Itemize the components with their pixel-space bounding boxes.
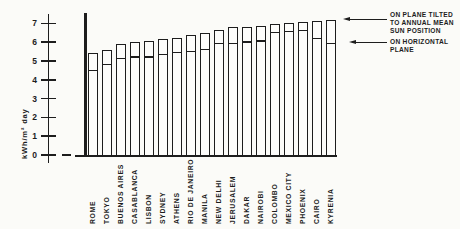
y-tick-label: 3 (23, 94, 37, 104)
y-axis-tick (41, 117, 56, 119)
legend-horizontal-label: ON HORIZONTAL PLANE (390, 38, 448, 54)
bar-buenos-aires (116, 44, 126, 156)
x-axis-label: CASABLANCA (131, 169, 138, 224)
x-axis-label: SYDNEY (159, 192, 166, 224)
y-axis-tick (41, 41, 56, 43)
y-axis-tick (41, 135, 56, 137)
horizontal-plane-line (89, 70, 97, 71)
bar-kyrenia (326, 20, 336, 156)
y-tick-label: 0 (23, 150, 37, 160)
horizontal-plane-line (313, 38, 321, 39)
horizontal-plane-line (327, 43, 335, 44)
bar-mexico-city (284, 23, 294, 156)
horizontal-plane-line (187, 51, 195, 52)
bar-jerusalem (228, 27, 238, 156)
y-axis-tick (41, 154, 56, 156)
horizontal-plane-line (229, 43, 237, 44)
y-axis-tick (41, 23, 56, 25)
legend-tilted-line2: TO ANNUAL MEAN (390, 19, 454, 27)
x-axis-label: KYRENIA (327, 189, 334, 225)
x-axis-label: CAIRO (313, 199, 320, 224)
legend-tilted-line3: SUN POSITION (390, 27, 454, 35)
bar-colombo (270, 24, 280, 156)
legend-horizontal-line2: PLANE (390, 46, 448, 54)
bar-rome (88, 53, 98, 156)
horizontal-plane-line (131, 56, 139, 57)
x-axis-label: DAKAR (243, 196, 250, 224)
y-tick-label: 1 (23, 131, 37, 141)
y-tick-label: 5 (23, 56, 37, 66)
bar-rio-de-janeiro (186, 35, 196, 156)
arrow-line (350, 19, 387, 20)
y-tick-label: 2 (23, 112, 37, 122)
horizontal-plane-line (299, 30, 307, 31)
horizontal-plane-line (285, 31, 293, 32)
x-axis-label: NEW DELHI (215, 180, 222, 224)
x-axis-label: JERUSALEM (229, 176, 236, 224)
bar-dakar (242, 27, 252, 156)
x-axis-label: LISBON (145, 194, 152, 224)
x-axis-label: RIO DE JANEIRO (187, 159, 194, 224)
horizontal-plane-line (173, 52, 181, 53)
y-axis-tick (41, 60, 56, 62)
x-axis-label: COLOMBO (271, 184, 278, 224)
bar-nairobi (256, 26, 266, 156)
bar-athens (172, 38, 182, 157)
x-axis-label: ROME (89, 201, 96, 224)
horizontal-plane-line (159, 54, 167, 55)
y-tick-label: 7 (23, 18, 37, 28)
bar-lisbon (144, 41, 154, 156)
x-axis-label: TOKYO (103, 196, 110, 224)
zero-dash (62, 154, 71, 156)
horizontal-plane-line (243, 41, 251, 42)
bar-phoenix (298, 22, 308, 156)
y-axis-tick (41, 98, 56, 100)
y-axis-tick (41, 79, 56, 81)
bar-manila (200, 33, 210, 156)
bar-sydney (158, 39, 168, 156)
x-axis-label: MANILA (201, 193, 208, 224)
x-axis-label: NAIROBI (257, 190, 264, 224)
x-axis-label: ATHENS (173, 192, 180, 224)
solar-radiation-bar-chart: kWh/m² day 01234567 ROMETOKYOBUENOS AIRE… (0, 0, 460, 229)
legend-tilted-label: ON PLANE TILTED TO ANNUAL MEAN SUN POSIT… (390, 11, 454, 36)
arrow-line (356, 42, 387, 43)
bar-casablanca (130, 42, 140, 156)
bar-new-delhi (214, 30, 224, 156)
y-tick-label: 6 (23, 37, 37, 47)
x-axis-label: BUENOS AIRES (117, 164, 124, 224)
x-axis-label: PHOENIX (299, 189, 306, 225)
bar-tokyo (102, 50, 112, 156)
horizontal-plane-line (215, 43, 223, 44)
horizontal-plane-line (271, 32, 279, 33)
y-axis-line (48, 14, 50, 163)
horizontal-plane-line (145, 56, 153, 57)
horizontal-plane-line (201, 49, 209, 50)
arrow-left-icon (343, 17, 350, 21)
y-tick-label: 4 (23, 75, 37, 85)
x-axis-label: MEXICO CITY (285, 172, 292, 224)
bar-cairo (312, 21, 322, 156)
legend-horizontal-line1: ON HORIZONTAL (390, 38, 448, 46)
horizontal-plane-line (103, 64, 111, 65)
legend-tilted-line1: ON PLANE TILTED (390, 11, 454, 19)
horizontal-plane-line (257, 40, 265, 41)
arrow-left-icon (349, 40, 356, 44)
horizontal-plane-line (117, 58, 125, 59)
